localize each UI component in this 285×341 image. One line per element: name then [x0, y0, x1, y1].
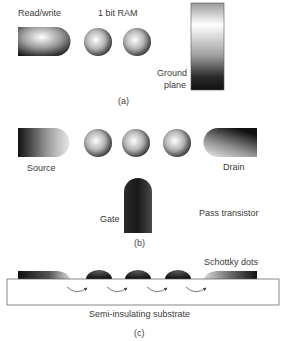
caption-c: (c) [134, 328, 145, 338]
ground-label-line1: Ground [153, 68, 187, 78]
source-label: Source [27, 163, 56, 173]
schottky-label: Schottky dots [204, 257, 258, 267]
panel-c [7, 270, 279, 305]
substrate-label: Semi-insulating substrate [89, 309, 190, 319]
readwrite-label: Read/write [18, 8, 61, 18]
transistor-dot-2 [122, 129, 150, 157]
transistor-dot-1 [84, 129, 112, 157]
schottky-dot-1 [86, 270, 112, 279]
schottky-drain [204, 271, 257, 279]
ram-dot-1 [84, 28, 112, 56]
caption-a: (a) [118, 96, 129, 106]
gate-label: Gate [100, 214, 120, 224]
schottky-dot-3 [165, 270, 191, 279]
ground-label-line2: plane [153, 80, 186, 90]
ground-plane [191, 3, 224, 90]
schottky-source [18, 271, 70, 279]
gate-electrode [124, 178, 152, 233]
drain-label: Drain [223, 162, 245, 172]
substrate [7, 279, 279, 305]
schottky-dot-2 [125, 270, 151, 279]
transistor-dot-3 [163, 129, 191, 157]
source-electrode [18, 128, 70, 157]
caption-b: (b) [134, 238, 145, 248]
drain-electrode [204, 128, 258, 157]
ram-label: 1 bit RAM [98, 8, 138, 18]
pass-transistor-label: Pass transistor [199, 208, 259, 218]
readwrite-electrode [18, 27, 70, 56]
ram-dot-2 [123, 28, 151, 56]
